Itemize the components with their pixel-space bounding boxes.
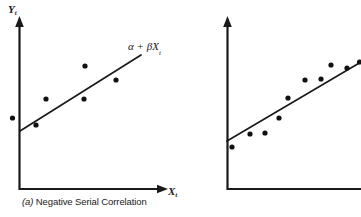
figure-container: Yt Xt α + βXt (a) Negative Serial Correl… [0,0,361,217]
data-point [43,96,48,101]
regression-line-a [20,55,141,131]
equation-x: X [152,40,159,52]
panel-positive-serial-correlation: Yt (b) Positive Serial Correlation [190,0,361,217]
data-point [113,77,118,82]
regression-line-b [227,62,361,141]
data-point [276,115,281,120]
panel-negative-serial-correlation: Yt Xt α + βXt (a) Negative Serial Correl… [0,0,190,217]
equation-subscript: t [159,49,161,57]
data-points-a [10,63,119,127]
data-point [302,77,307,82]
scatter-plot-b [190,0,361,217]
caption-panel-a: (a) Negative Serial Correlation [22,196,147,207]
data-point [33,122,38,127]
data-point [247,131,252,136]
caption-a-text: Negative Serial Correlation [33,196,146,207]
x-axis-a [19,185,168,194]
data-point [82,63,87,68]
data-point [10,115,15,120]
caption-a-tag: (a) [22,196,33,207]
data-point [229,144,234,149]
y-axis-label-a: Yt [8,3,17,15]
data-point [318,76,323,81]
y-axis-label-a-text: Y [8,3,15,15]
data-point [285,95,290,100]
x-axis-label-a: Xt [168,185,177,197]
scatter-plot-a [0,0,190,217]
data-point [328,62,333,67]
y-axis-b [223,16,232,190]
data-point [81,96,86,101]
equation-plus: + [134,40,147,52]
data-point [344,65,349,70]
y-axis-label-a-subscript: t [15,9,17,17]
regression-equation-label: α + βXt [128,40,161,55]
data-point [262,130,267,135]
y-axis-a [15,16,24,190]
